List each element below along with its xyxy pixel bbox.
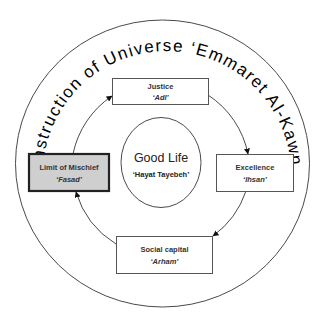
node-subtitle: ‘Arham’	[151, 257, 180, 266]
arrow-excellence-to-social	[213, 191, 246, 236]
node-title: Justice	[148, 82, 174, 91]
node-social-capital: Social capital ‘Arham’	[117, 237, 213, 274]
arrow-justice-to-excellence	[208, 95, 248, 154]
node-excellence: Excellence ‘Ihsan’	[217, 155, 294, 192]
node-subtitle: ‘Fasad’	[56, 175, 83, 184]
node-title: Excellence	[236, 163, 275, 172]
arrow-social-to-limit	[76, 192, 116, 244]
center-title: Good Life	[134, 151, 188, 165]
node-title: Limit of Mischief	[39, 163, 99, 172]
node-subtitle: ‘Adl’	[152, 93, 169, 102]
universe-construction-diagram: Construction of Universe ‘Emmaret Al-Kaw…	[0, 0, 324, 324]
center-node-good-life: Good Life ‘Hayat Tayebeh’	[121, 118, 201, 208]
node-title: Social capital	[141, 245, 189, 254]
node-limit-of-mischief: Limit of Mischief ‘Fasad’	[29, 154, 109, 191]
node-subtitle: ‘Ihsan’	[243, 175, 268, 184]
arrow-limit-to-justice	[73, 96, 112, 154]
center-subtitle: ‘Hayat Tayebeh’	[133, 170, 190, 179]
node-justice: Justice ‘Adl’	[113, 79, 209, 105]
